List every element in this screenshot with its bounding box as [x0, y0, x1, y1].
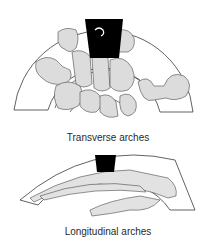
longitudinal-arches-caption: Longitudinal arches: [4, 226, 208, 237]
longitudinal-arch-illustration: [0, 0, 208, 243]
longitudinal-keystone: [95, 155, 116, 172]
